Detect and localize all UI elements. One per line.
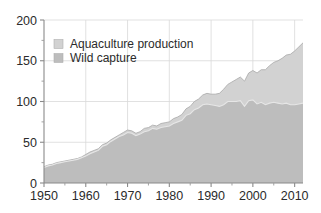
x-tick-label: 1970 <box>114 189 142 203</box>
y-tick-label: 50 <box>23 136 37 150</box>
x-tick-label: 2000 <box>239 189 267 203</box>
y-tick-label: 150 <box>16 54 37 68</box>
x-tick-label: 1990 <box>197 189 225 203</box>
x-tick-label: 1950 <box>30 189 58 203</box>
legend-swatch-wild-capture <box>54 54 63 63</box>
y-tick-label: 200 <box>16 14 37 28</box>
y-tick-label: 100 <box>16 95 37 109</box>
fisheries-area-chart: 0501001502001950196019701980199020002010… <box>0 0 321 213</box>
legend-swatch-aquaculture-production <box>54 40 63 49</box>
x-tick-label: 2010 <box>281 189 309 203</box>
chart-canvas: 0501001502001950196019701980199020002010… <box>0 0 321 213</box>
area-wild-capture <box>44 100 303 183</box>
x-tick-label: 1960 <box>72 189 100 203</box>
legend-label-wild-capture: Wild capture <box>70 51 137 65</box>
legend-label-aquaculture-production: Aquaculture production <box>70 37 193 51</box>
x-tick-label: 1980 <box>155 189 183 203</box>
